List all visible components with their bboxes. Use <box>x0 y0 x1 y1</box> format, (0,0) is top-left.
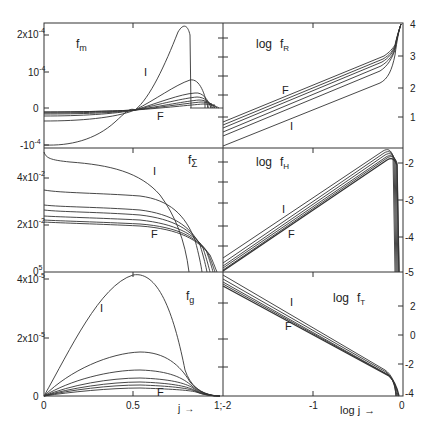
panel-fT <box>223 275 399 396</box>
fT-ytick-neg4: -4 <box>405 388 414 399</box>
fm-ytick-neg1e-4: -10-4 <box>20 138 41 151</box>
fm-ytick-2e-4: 2x10-4 <box>17 27 45 40</box>
fg-label-F: F <box>157 386 164 398</box>
fS-label-F: F <box>151 228 158 240</box>
fH-title: logfH <box>256 155 289 171</box>
curve-I <box>223 275 396 396</box>
fg-ytick-2e-5: 2x10-5 <box>17 331 45 344</box>
curve-F <box>44 385 220 396</box>
fS-label-I: I <box>153 165 156 177</box>
x-axis-label-left: j→ <box>177 403 194 414</box>
fH-label-I: I <box>282 203 285 215</box>
curve-F <box>223 159 399 272</box>
panel-fR <box>223 24 401 146</box>
panel-fH <box>223 150 399 272</box>
xtick-0: 0 <box>41 400 47 411</box>
curve-F <box>44 222 217 272</box>
panel-fSigma <box>44 152 217 272</box>
fT-label-F: F <box>285 320 292 332</box>
fR-title: logfR <box>256 37 289 53</box>
fm-label-F: F <box>157 110 164 122</box>
xtick-0-right: 0 <box>399 400 405 411</box>
fS-title: fΣ <box>188 153 198 169</box>
fH-ytick-neg2: -2 <box>405 158 414 169</box>
fT-ytick-0: 0 <box>410 330 416 341</box>
fT-label-I: I <box>290 296 293 308</box>
fm-ytick-0: 0 <box>33 103 39 114</box>
fg-title: fg <box>186 289 194 305</box>
xtick-1-neg2: 1;-2 <box>214 400 232 411</box>
fg-ytick-0: 0 <box>33 391 39 402</box>
panel-fm <box>44 26 223 145</box>
fR-ytick-3: 3 <box>410 51 416 62</box>
curve-I <box>223 24 401 146</box>
xtick-0.5: 0.5 <box>126 400 140 411</box>
fR-ytick-4: 4 <box>410 19 416 30</box>
curve-I <box>44 152 189 272</box>
fT-title: logfT <box>333 291 365 307</box>
fH-ytick-neg5: -5 <box>405 267 414 278</box>
fH-ytick-neg4: -4 <box>405 232 414 243</box>
x-axis-label-right: log j→ <box>340 404 375 416</box>
fH-ytick-neg3: -3 <box>405 195 414 206</box>
fH-label-F: F <box>288 228 295 240</box>
fg-ytick-4e-5: 4x10-5 <box>17 272 45 285</box>
curve-I <box>44 26 191 145</box>
fR-ytick-2: 2 <box>410 83 416 94</box>
fg-label-I: I <box>100 302 103 314</box>
fS-ytick-2e-2: 2x10-2 <box>17 217 45 230</box>
fR-label-F: F <box>282 84 289 96</box>
fm-ytick-1e-4: 10-4 <box>28 65 45 78</box>
fT-ytick-2: 2 <box>410 301 416 312</box>
curve-F <box>223 286 399 396</box>
fS-ytick-4e-2: 4x10-2 <box>17 170 45 183</box>
fm-title: fm <box>76 37 87 53</box>
figure: fm I F logfR F I fΣ I F logfH I F fg I F… <box>0 0 437 427</box>
panel-fg <box>44 275 220 396</box>
fT-ytick-neg2: -2 <box>405 359 414 370</box>
fR-label-I: I <box>290 120 293 132</box>
fm-label-I: I <box>144 66 147 78</box>
xtick-neg1: -1 <box>309 400 318 411</box>
fR-ytick-1: 1 <box>410 112 416 123</box>
